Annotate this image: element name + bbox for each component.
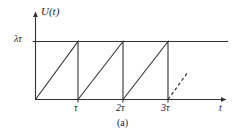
y-tick-label-lambda-tau: λτ (14, 34, 22, 44)
sawtooth-waveform (36, 42, 169, 100)
x-tick-label-2tau: 2τ (116, 103, 125, 113)
dashed-ramp-continuation (168, 72, 188, 100)
x-tick-label-tau: τ (74, 103, 78, 113)
x-axis-title: t (219, 103, 222, 113)
figure-container: U(t) λτ τ 2τ 3τ t (a) (0, 0, 245, 137)
x-tick-label-3tau: 3τ (161, 103, 170, 113)
ramp-segment-2 (78, 42, 123, 100)
y-axis-title: U(t) (41, 6, 59, 17)
axes-group (36, 12, 227, 100)
figure-caption: (a) (0, 118, 245, 128)
ramp-segment-3 (123, 42, 168, 100)
ramp-segment-1 (36, 42, 79, 100)
